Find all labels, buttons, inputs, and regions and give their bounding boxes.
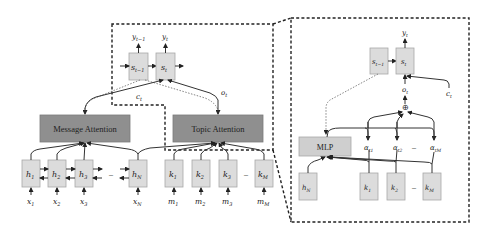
svg-text:αtM: αtM bbox=[430, 144, 442, 153]
mlp-block: MLP bbox=[299, 137, 351, 156]
svg-text:Message Attention: Message Attention bbox=[53, 124, 117, 134]
sum-operator: ⊕ bbox=[402, 103, 409, 112]
message-attention-block: Message Attention bbox=[40, 115, 130, 142]
topic-vector-label: ot bbox=[221, 89, 228, 98]
svg-text:–: – bbox=[411, 183, 417, 192]
topic-word-states: k1 k2 k3 kM – m1 m2 m3 mM bbox=[165, 160, 273, 207]
right-panel-topic-attention-detail: st−1 st yt ct ot ⊕ MLP αt1 αt2 bbox=[299, 29, 452, 200]
svg-text:x2: x2 bbox=[53, 197, 60, 207]
detail-state-prev: st−1 bbox=[370, 48, 388, 74]
svg-text:x1: x1 bbox=[27, 197, 34, 207]
left-panel: st−1 yt−1 st yt ct ot Message Attention bbox=[22, 33, 273, 207]
svg-text:m2: m2 bbox=[195, 197, 205, 207]
svg-text:xN: xN bbox=[133, 197, 142, 207]
svg-text:MLP: MLP bbox=[317, 143, 334, 152]
detail-bottom-states: hN k1 k2 kM – bbox=[299, 173, 441, 200]
svg-text:yt: yt bbox=[161, 33, 169, 42]
decoder-state-current: st yt bbox=[156, 33, 183, 80]
svg-text:yt: yt bbox=[401, 29, 408, 38]
svg-text:αt2: αt2 bbox=[393, 144, 403, 153]
svg-text:mM: mM bbox=[257, 197, 270, 207]
decoder-state-prev: st−1 yt−1 bbox=[120, 33, 148, 80]
svg-text:m3: m3 bbox=[222, 197, 232, 207]
encoder-hidden-states: h1 h2 h3 hN – x1 x2 x3 xN bbox=[22, 160, 147, 207]
svg-text:Topic Attention: Topic Attention bbox=[192, 124, 246, 134]
svg-text:–: – bbox=[411, 143, 417, 152]
svg-text:x3: x3 bbox=[80, 197, 87, 207]
encoder-to-message-attention-links bbox=[31, 143, 215, 160]
detail-topic-vector: ot bbox=[402, 86, 408, 95]
context-label: ct bbox=[136, 93, 143, 102]
topic-attention-block: Topic Attention bbox=[173, 115, 263, 142]
svg-text:–: – bbox=[108, 170, 114, 179]
svg-text:yt−1: yt−1 bbox=[131, 33, 145, 42]
detail-state-current: st yt bbox=[396, 29, 414, 74]
svg-text:m1: m1 bbox=[168, 197, 178, 207]
detail-context-label: ct bbox=[446, 90, 452, 99]
attention-weights: αt1 αt2 αtM – bbox=[364, 143, 442, 153]
topic-attention-architecture-diagram: st−1 yt−1 st yt ct ot Message Attention bbox=[0, 0, 487, 236]
svg-text:–: – bbox=[243, 170, 249, 179]
